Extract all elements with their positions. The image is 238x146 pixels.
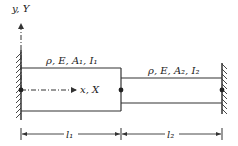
- left-fixed-support: [16, 50, 21, 120]
- segment-1-properties: ρ, E, A₁, I₁: [45, 55, 97, 66]
- segment-2-properties: ρ, E, A₂, I₂: [147, 65, 199, 76]
- length-2-label: l₂: [167, 129, 174, 140]
- y-axis-label: y, Y: [11, 3, 31, 14]
- node-right: [220, 88, 225, 93]
- dimension-line: [21, 128, 222, 140]
- node-left: [19, 88, 24, 93]
- length-1-label: l₁: [66, 129, 73, 140]
- x-axis-label: x, X: [80, 84, 100, 95]
- node-middle: [119, 88, 124, 93]
- stepped-beam-diagram: y, Y x, X ρ, E, A₁, I₁ ρ, E, A₂, I₂ l₁ l…: [0, 0, 238, 146]
- beam-segment-2: [121, 78, 222, 103]
